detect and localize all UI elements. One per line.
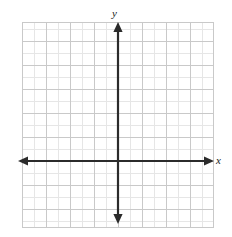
x-axis-label: x [216,155,221,166]
coordinate-plane-figure: y x [0,0,232,237]
y-axis-bottom-arrowhead [113,214,122,224]
axes [0,0,232,237]
x-axis-right-arrowhead [204,156,214,165]
y-axis-top-arrowhead [113,22,122,32]
x-axis-left-arrowhead [18,156,28,165]
y-axis-label: y [112,8,117,19]
x-axis [18,156,214,165]
y-axis [113,22,122,224]
